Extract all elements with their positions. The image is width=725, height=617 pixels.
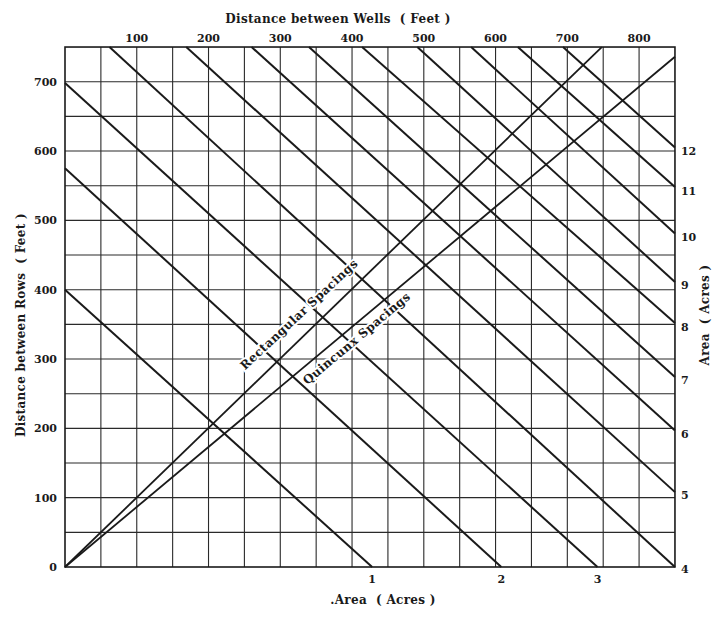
right-tick-label: 4 [681,563,689,576]
spacing-line [65,47,602,567]
right-tick-label: 8 [681,321,689,334]
series-annotations: Rectangular SpacingsRectangular Spacings… [237,256,413,387]
area-line [563,47,675,148]
top-tick-label: 300 [269,32,292,45]
left-axis-title: Distance between Rows ( Feet ) [14,213,28,437]
left-tick-label: 300 [34,353,57,366]
top-tick-label: 700 [556,32,579,45]
bottom-tick-label: 1 [368,573,376,586]
left-tick-label: 400 [34,284,57,297]
right-tick-label: 10 [681,231,697,244]
area-line [362,47,675,323]
top-tick-label: 100 [125,32,148,45]
area-line [65,83,597,567]
bottom-tick-label: 3 [594,573,602,586]
top-axis-title: Distance between Wells ( Feet ) [225,12,450,26]
bottom-tick-label: 2 [497,573,505,586]
area-line [65,168,501,567]
left-tick-label: 100 [34,492,57,505]
top-tick-label: 600 [484,32,507,45]
right-tick-label: 11 [681,185,696,198]
top-tick-label: 200 [197,32,220,45]
left-tick-label: 700 [34,76,57,89]
left-tick-label: 500 [34,214,57,227]
left-tick-label: 600 [34,145,57,158]
plot-frame [65,47,675,567]
right-tick-label: 5 [681,489,689,502]
left-tick-label: 200 [34,422,57,435]
area-lines [65,47,675,567]
right-axis-title: Area ( Acres ) [698,265,712,367]
area-line [518,47,675,187]
right-tick-label: 7 [681,374,689,387]
spacing-line [65,57,675,567]
right-tick-label: 9 [681,279,689,292]
tick-labels: 1002003004005006007008000100200300400500… [34,32,697,586]
right-tick-label: 12 [681,145,696,158]
chart: 1002003004005006007008000100200300400500… [0,0,725,617]
area-line [186,47,675,492]
top-tick-label: 800 [628,32,651,45]
spacing-lines [65,47,675,567]
top-tick-label: 500 [412,32,435,45]
top-tick-label: 400 [341,32,364,45]
plot-svg: 1002003004005006007008000100200300400500… [0,0,725,617]
bottom-axis-title: .Area ( Acres ) [330,593,435,607]
left-tick-label: 0 [49,561,57,574]
right-tick-label: 6 [681,428,689,441]
grid-lines [65,47,675,567]
